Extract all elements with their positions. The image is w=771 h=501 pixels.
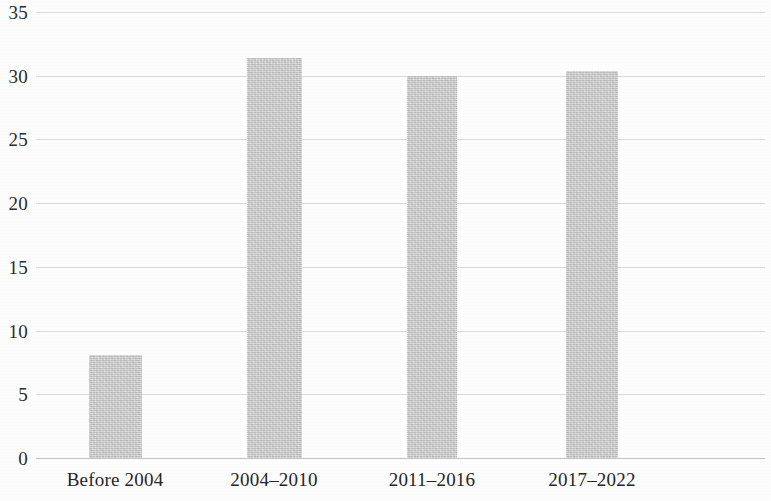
gridline	[36, 139, 765, 140]
axis-baseline	[36, 458, 765, 459]
gridline	[36, 203, 765, 204]
y-tick-label: 25	[0, 130, 28, 149]
y-tick-label: 15	[0, 257, 28, 276]
y-tick-label: 0	[0, 449, 28, 468]
bar	[407, 76, 457, 458]
x-tick-label: 2004–2010	[230, 470, 317, 489]
x-tick-label: Before 2004	[67, 470, 164, 489]
y-tick-label: 5	[0, 385, 28, 404]
gridline	[36, 76, 765, 77]
gridline	[36, 12, 765, 13]
y-tick-label: 20	[0, 194, 28, 213]
bar	[566, 71, 618, 458]
bar-chart-figure: 05101520253035 Before 20042004–20102011–…	[0, 0, 771, 501]
y-tick-label: 10	[0, 321, 28, 340]
x-tick-label: 2011–2016	[389, 470, 476, 489]
bar	[89, 355, 142, 458]
y-tick-label: 35	[0, 3, 28, 22]
gridline	[36, 331, 765, 332]
x-tick-label: 2017–2022	[548, 470, 635, 489]
bar	[247, 58, 302, 458]
y-tick-label: 30	[0, 66, 28, 85]
gridline	[36, 394, 765, 395]
gridline	[36, 267, 765, 268]
plot-area	[36, 12, 765, 458]
